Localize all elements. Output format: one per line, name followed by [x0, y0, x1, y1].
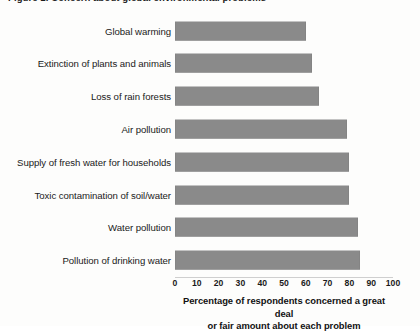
- bar-track: [175, 21, 306, 40]
- bar-row: Toxic contamination of soil/water: [0, 178, 420, 211]
- x-axis-tick-label: 80: [345, 278, 355, 288]
- bar-row: Global warming: [0, 14, 420, 47]
- bar-row: Supply of fresh water for households: [0, 145, 420, 178]
- x-axis-title-line-1: Percentage of respondents concerned a gr…: [183, 295, 385, 319]
- bar-track: [175, 119, 347, 138]
- x-axis-tick-labels: 0102030405060708090100: [0, 277, 420, 291]
- bar-category-label: Water pollution: [108, 222, 171, 233]
- x-axis-tick-label: 20: [214, 278, 224, 288]
- bar: [175, 218, 358, 237]
- x-axis-tick-label: 10: [192, 278, 202, 288]
- x-axis-tick-label: 40: [257, 278, 267, 288]
- x-axis-tick-label: 0: [173, 278, 178, 288]
- bar-category-label: Pollution of drinking water: [62, 255, 171, 266]
- bar-track: [175, 251, 360, 270]
- x-axis-tick-label: 60: [301, 278, 311, 288]
- x-axis-tick-label: 50: [279, 278, 289, 288]
- bar-track: [175, 152, 349, 171]
- bar-category-label: Extinction of plants and animals: [38, 58, 171, 69]
- bar-row: Air pollution: [0, 112, 420, 145]
- bar: [175, 87, 319, 106]
- figure-title-text: Figure 1. Concern about global environme…: [8, 0, 266, 3]
- bar-category-label: Loss of rain forests: [91, 91, 171, 102]
- bar: [175, 185, 349, 204]
- bar-track: [175, 218, 358, 237]
- bar-track: [175, 185, 349, 204]
- bar: [175, 119, 347, 138]
- figure-title-clipped: Figure 1. Concern about global environme…: [0, 0, 420, 9]
- bar-row: Loss of rain forests: [0, 80, 420, 113]
- plot-area: Global warmingExtinction of plants and a…: [0, 12, 420, 277]
- x-axis-tick-label: 30: [236, 278, 246, 288]
- bar-category-label: Air pollution: [122, 123, 171, 134]
- x-axis-tick-label: 70: [323, 278, 333, 288]
- bar-track: [175, 87, 319, 106]
- x-axis-tick-label: 90: [366, 278, 376, 288]
- bar-row: Extinction of plants and animals: [0, 47, 420, 80]
- x-axis-tick-label: 100: [386, 278, 400, 288]
- bar: [175, 54, 312, 73]
- bar-category-label: Supply of fresh water for households: [17, 156, 171, 167]
- x-axis-title: Percentage of respondents concerned a gr…: [175, 295, 393, 333]
- bar: [175, 152, 349, 171]
- bar-row: Pollution of drinking water: [0, 244, 420, 277]
- bar-category-label: Toxic contamination of soil/water: [35, 189, 171, 200]
- bar-row: Water pollution: [0, 211, 420, 244]
- bar-category-label: Global warming: [105, 25, 171, 36]
- x-axis-title-line-2: or fair amount about each problem: [175, 320, 393, 333]
- bar-track: [175, 54, 312, 73]
- bar: [175, 21, 306, 40]
- bar: [175, 251, 360, 270]
